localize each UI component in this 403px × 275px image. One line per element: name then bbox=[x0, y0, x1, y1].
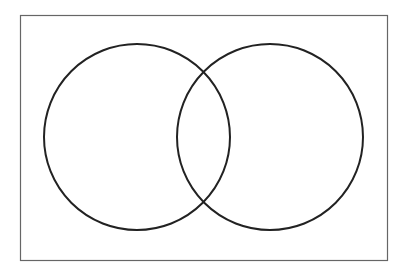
diagram-frame bbox=[21, 16, 388, 261]
left-set-circle bbox=[44, 44, 230, 230]
venn-diagram bbox=[0, 0, 403, 275]
right-set-circle bbox=[177, 44, 363, 230]
